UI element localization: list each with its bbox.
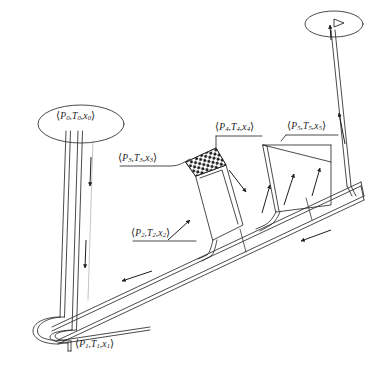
packed-column-flow-arrow — [168, 220, 190, 240]
lower-duct-return-arrow — [301, 230, 331, 241]
vessel-inlet-arrowhead — [334, 19, 344, 27]
flow-loop-schematic — [0, 0, 378, 365]
downcomer-flow-arrow-lower — [85, 240, 86, 268]
diagram-canvas: ⟨P0,T0,x0⟩ ⟨P3,T3,x3⟩ ⟨P4,T4,x4⟩ ⟨P5,T5,… — [0, 0, 378, 365]
vertical-riser-pipe — [331, 30, 356, 196]
packed-column-outlet-arrow — [229, 170, 246, 192]
riser-top-arrow — [330, 25, 331, 40]
packed-bed-outlet-leader — [216, 136, 262, 148]
main-duct-flow-arrow — [122, 271, 152, 281]
riser-panel-arrow-mid — [284, 174, 294, 205]
upper-left-ellipse-vessel — [38, 105, 124, 143]
riser-panel-arrow-right — [312, 168, 320, 196]
packed-bed-fill — [186, 148, 226, 176]
vertical-downcomer-pipe — [60, 131, 93, 330]
p5-label-leader — [281, 135, 338, 141]
p3-label-leader — [120, 159, 190, 166]
bottom-u-bend-return — [33, 317, 150, 351]
downcomer-flow-arrow-upper — [90, 157, 91, 186]
inclined-main-duct — [52, 182, 364, 344]
riser-panel-arrow-left — [262, 185, 270, 213]
duct-cross-brace — [240, 198, 312, 252]
